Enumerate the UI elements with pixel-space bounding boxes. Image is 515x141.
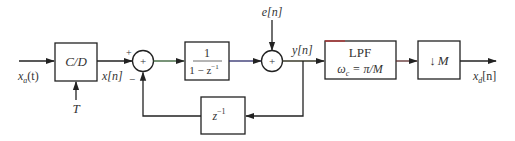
input-label: xa(t) bbox=[17, 69, 39, 85]
lpf-cutoff-label: ωc = π/M bbox=[337, 62, 383, 78]
sum1-minus-sign: − bbox=[129, 73, 135, 85]
down-arrow-icon: ↓ bbox=[429, 53, 436, 68]
noise-label: e[n] bbox=[262, 5, 283, 19]
sampled-signal-label: x[n] bbox=[101, 69, 123, 83]
output-label: xd[n] bbox=[472, 69, 496, 85]
accumulator-numerator: 1 bbox=[204, 46, 210, 60]
downsampler-label: ↓M bbox=[429, 53, 450, 68]
sum1-plus-sign: + bbox=[126, 47, 132, 58]
quantized-signal-label: y[n] bbox=[291, 43, 313, 57]
sampling-period-label: T bbox=[72, 101, 80, 116]
cd-label: C/D bbox=[65, 54, 87, 69]
lpf-label: LPF bbox=[349, 45, 371, 60]
block-diagram: xa(t) C/D T x[n] + − + 1 1 − z−1 e[n] + … bbox=[0, 0, 515, 141]
sum1-symbol: + bbox=[140, 55, 146, 67]
sum2-symbol: + bbox=[269, 55, 275, 67]
